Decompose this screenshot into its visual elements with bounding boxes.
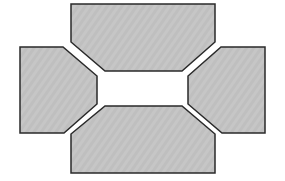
top-panel	[71, 4, 215, 71]
left-panel	[20, 47, 97, 133]
bottom-panel	[71, 106, 215, 173]
panels-diagram	[0, 0, 285, 181]
diagram-canvas	[0, 0, 285, 181]
